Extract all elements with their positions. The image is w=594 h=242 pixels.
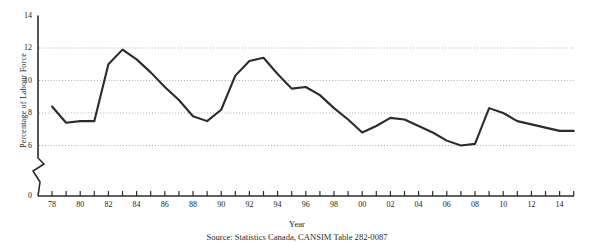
x-tick-label: 04 bbox=[406, 201, 432, 209]
x-tick-label: 90 bbox=[208, 201, 234, 209]
x-tick-label: 80 bbox=[67, 201, 93, 209]
x-tick-label: 96 bbox=[293, 201, 319, 209]
x-tick-label: 78 bbox=[39, 201, 65, 209]
y-tick-label: 6 bbox=[6, 142, 32, 150]
x-tick-label: 14 bbox=[547, 201, 573, 209]
x-tick-label: 02 bbox=[377, 201, 403, 209]
x-tick-label: 12 bbox=[518, 201, 544, 209]
axes-group bbox=[33, 16, 574, 197]
x-tick-label: 98 bbox=[321, 201, 347, 209]
gridlines-group bbox=[39, 48, 574, 146]
x-tick-label: 94 bbox=[265, 201, 291, 209]
x-tick-label: 10 bbox=[490, 201, 516, 209]
x-tick-label: 00 bbox=[349, 201, 375, 209]
x-tick-label: 86 bbox=[152, 201, 178, 209]
y-tick-label: 12 bbox=[6, 44, 32, 52]
data-series-line bbox=[52, 50, 574, 146]
y-tick-label: 8 bbox=[6, 109, 32, 117]
x-tick-label: 06 bbox=[434, 201, 460, 209]
x-tick-label: 92 bbox=[236, 201, 262, 209]
x-tick-label: 84 bbox=[124, 201, 150, 209]
y-tick-label: 14 bbox=[6, 12, 32, 20]
x-axis-label: Year bbox=[0, 219, 594, 229]
x-tick-label: 88 bbox=[180, 201, 206, 209]
source-caption: Source: Statistics Canada, CANSIM Table … bbox=[0, 232, 594, 242]
y-tick-label: 10 bbox=[6, 77, 32, 85]
x-tick-label: 82 bbox=[95, 201, 121, 209]
y-tick-label: 0 bbox=[6, 192, 32, 200]
x-tick-label: 08 bbox=[462, 201, 488, 209]
